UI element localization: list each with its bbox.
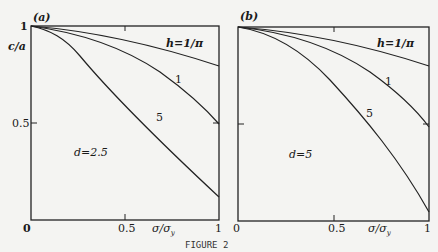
y-tick-05: 0.5 — [12, 117, 30, 130]
curve-label-5: 5 — [366, 107, 373, 120]
curve-label-h-1-over-pi: h=1/π — [377, 37, 415, 50]
curve-label-h-1-over-pi: h=1/π — [166, 37, 204, 50]
d-annotation: d=2.5 — [74, 146, 108, 159]
x-axis-label: σ/σy — [152, 222, 176, 237]
x-tick-1: 1 — [215, 222, 222, 235]
d-annotation: d=5 — [289, 148, 312, 161]
curve-label-5: 5 — [156, 111, 163, 124]
x-tick-1: 1 — [424, 222, 431, 235]
x-tick-05: 0.5 — [328, 222, 346, 235]
panel-a-frame — [31, 26, 219, 220]
panel-b-label: (b) — [240, 10, 258, 23]
x-tick-0: 0 — [233, 222, 240, 235]
curve-a-h-5 — [31, 26, 219, 197]
panel-a-label: (a) — [33, 11, 51, 24]
curve-b-h-5 — [238, 27, 429, 212]
figure-canvas: (a) 1 c/a 0.5 0 0.5 1 σ/σy h=1/π 1 5 d=2… — [0, 0, 438, 252]
figure-caption: FIGURE 2 — [185, 240, 228, 250]
x-axis-label: σ/σy — [368, 222, 392, 237]
y-axis-label: c/a — [8, 40, 26, 53]
panel-b-frame — [238, 27, 429, 221]
x-tick-0: 0 — [23, 222, 31, 235]
y-tick-1: 1 — [20, 20, 28, 33]
panel-a: (a) 1 c/a 0.5 0 0.5 1 σ/σy h=1/π 1 5 d=2… — [8, 11, 222, 237]
curve-label-1: 1 — [385, 75, 392, 88]
x-tick-05: 0.5 — [118, 222, 136, 235]
panel-b: (b) 0 0.5 1 σ/σy h=1/π 1 5 d=5 — [233, 10, 431, 237]
curve-label-1: 1 — [175, 73, 182, 86]
